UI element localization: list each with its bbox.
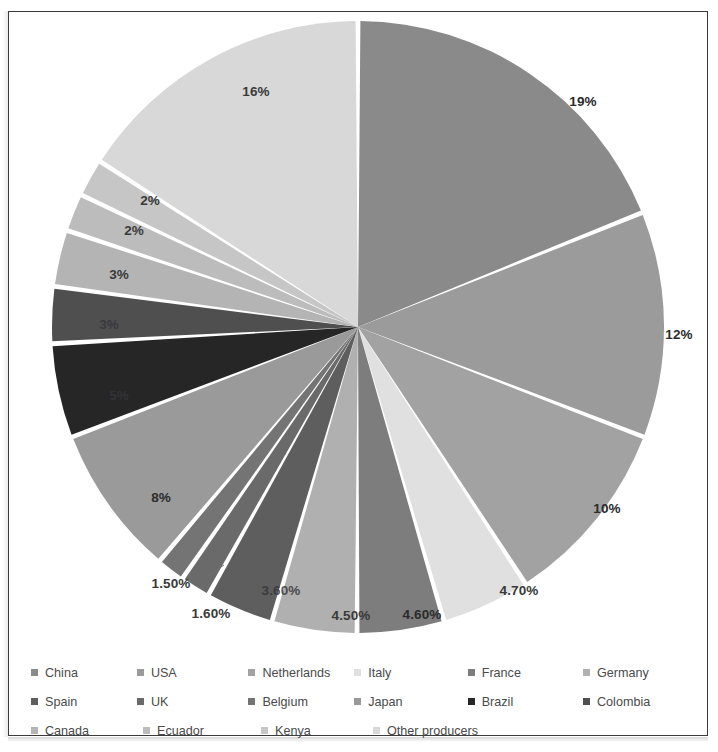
slice-label-france: 4.60% [403,607,442,622]
legend-item-ecuador[interactable]: Ecuador [143,724,261,737]
legend-label: Other producers [387,725,478,738]
legend-swatch-icon [143,727,150,734]
slice-label-netherlands: 10% [593,501,620,516]
legend-label: Ecuador [157,725,204,738]
legend-swatch-icon [31,727,38,734]
bottom-edge-shading [8,737,708,742]
legend-swatch-icon [31,698,38,705]
legend-label: USA [151,667,177,680]
legend-label: Kenya [275,725,311,738]
legend-label: Netherlands [262,667,330,680]
slice-label-kenya: 2% [140,193,160,208]
legend-swatch-icon [248,698,255,705]
slice-label-other-producers: 16% [242,84,269,99]
legend-item-other-producers[interactable]: Other producers [373,724,493,737]
legend-label: UK [151,696,169,709]
legend-swatch-icon [468,698,475,705]
legend-swatch-icon [468,669,475,676]
legend-item-usa[interactable]: USA [137,666,249,679]
legend-swatch-icon [583,669,590,676]
legend-label: China [45,667,78,680]
legend-row: SpainUKBelgiumJapanBrazilColombia [31,687,687,716]
legend-item-spain[interactable]: Spain [31,695,137,708]
legend-label: France [482,667,521,680]
legend-item-canada[interactable]: Canada [31,724,143,737]
legend-item-uk[interactable]: UK [137,695,249,708]
legend-label: Belgium [262,696,308,709]
legend-label: Japan [368,696,402,709]
legend-item-belgium[interactable]: Belgium [248,695,354,708]
slice-label-japan: 8% [151,490,171,505]
legend-row: ChinaUSANetherlandsItalyFranceGermany [31,658,687,687]
legend-swatch-icon [137,669,144,676]
slice-label-usa: 12% [665,327,692,342]
slice-label-china: 19% [569,94,596,109]
legend-label: Brazil [482,696,514,709]
legend-item-kenya[interactable]: Kenya [261,724,373,737]
legend-swatch-icon [137,698,144,705]
legend-item-netherlands[interactable]: Netherlands [248,666,354,679]
legend-swatch-icon [354,698,361,705]
legend-swatch-icon [354,669,361,676]
legend-label: Spain [45,696,77,709]
legend-swatch-icon [31,669,38,676]
legend-label: Germany [597,667,649,680]
legend-label: Colombia [597,696,650,709]
slice-label-colombia: 3% [99,317,119,332]
pie-chart-area: 19%12%10%4.70%4.60%4.50%3.60%1.60%1.50%8… [9,12,707,642]
legend-swatch-icon [583,698,590,705]
slice-label-belgium: 1.50% [152,576,191,591]
legend-item-italy[interactable]: Italy [354,666,467,679]
legend-item-france[interactable]: France [468,666,583,679]
slice-label-brazil: 5% [109,388,129,403]
legend-item-china[interactable]: China [31,666,137,679]
legend-swatch-icon [248,669,255,676]
chart-frame: 19%12%10%4.70%4.60%4.50%3.60%1.60%1.50%8… [8,11,708,736]
legend-label: Canada [45,725,89,738]
slice-label-canada: 3% [109,267,129,282]
legend-swatch-icon [261,727,268,734]
legend-item-japan[interactable]: Japan [354,695,467,708]
legend-swatch-icon [373,727,380,734]
legend-item-brazil[interactable]: Brazil [468,695,583,708]
legend-item-colombia[interactable]: Colombia [583,695,687,708]
slice-label-germany: 4.50% [332,608,371,623]
chart-legend: ChinaUSANetherlandsItalyFranceGermanySpa… [9,648,707,736]
legend-item-germany[interactable]: Germany [583,666,687,679]
legend-label: Italy [368,667,391,680]
slice-label-uk: 1.60% [192,606,231,621]
slice-label-ecuador: 2% [124,223,144,238]
slice-label-spain: 3.60% [262,583,301,598]
slice-label-italy: 4.70% [500,583,539,598]
